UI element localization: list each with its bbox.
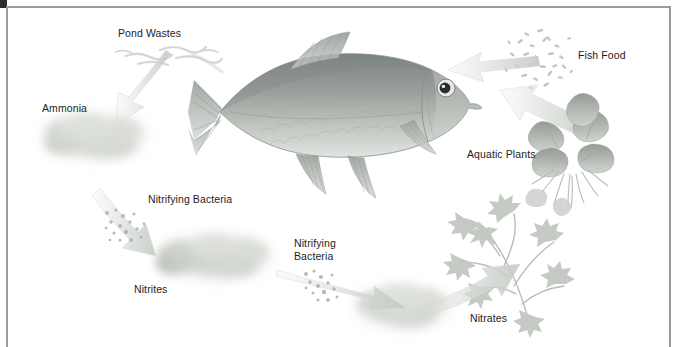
frame-rule-right bbox=[669, 6, 671, 347]
ammonia-cloud bbox=[42, 114, 146, 158]
arrow-ammonia-to-nitrites bbox=[92, 188, 156, 256]
label-nitrifying-bacteria-2: Nitrifying Bacteria bbox=[294, 237, 336, 263]
arrow-food-to-fish bbox=[448, 52, 540, 82]
fish-tail bbox=[188, 80, 222, 156]
fish-illustration bbox=[188, 32, 482, 198]
label-ammonia: Ammonia bbox=[42, 102, 87, 115]
nitrites-cloud bbox=[156, 234, 272, 280]
label-nitrifying-bacteria-1: Nitrifying Bacteria bbox=[148, 193, 232, 206]
fish-anal-fin bbox=[296, 154, 326, 194]
label-nitrates: Nitrates bbox=[470, 312, 507, 325]
fish-eye bbox=[437, 79, 455, 97]
fish-pelvic-fin bbox=[348, 156, 376, 198]
arrow-wastes-to-ammonia bbox=[116, 50, 171, 125]
nitrogen-cycle-figure: Pond Wastes Ammonia Fish Food Aquatic Pl… bbox=[0, 0, 678, 347]
label-pond-wastes: Pond Wastes bbox=[118, 27, 181, 40]
label-aquatic-plants: Aquatic Plants bbox=[467, 148, 536, 161]
cycle-illustration bbox=[8, 8, 669, 347]
label-fish-food: Fish Food bbox=[578, 49, 626, 62]
label-nitrites: Nitrites bbox=[134, 283, 167, 296]
fish-mouth bbox=[469, 104, 482, 109]
